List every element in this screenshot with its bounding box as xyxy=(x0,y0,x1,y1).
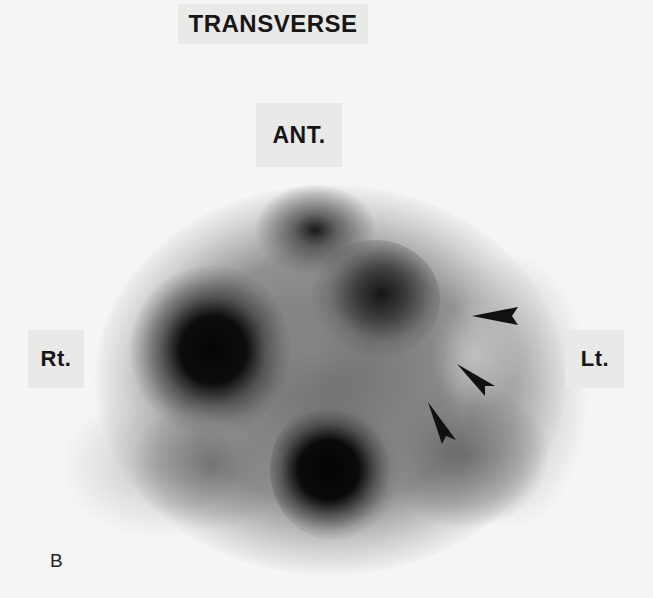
transverse-scan-image xyxy=(0,0,653,598)
left-text: Lt. xyxy=(581,346,609,372)
anterior-text: ANT. xyxy=(272,122,325,149)
anterior-label: ANT. xyxy=(256,103,342,167)
title-label: TRANSVERSE xyxy=(178,4,368,44)
central-lucency xyxy=(250,300,370,400)
arrowhead-lower-icon xyxy=(426,400,462,446)
arrowhead-middle-icon xyxy=(455,362,503,398)
lower-left-region xyxy=(130,400,290,530)
right-side-hotspot xyxy=(130,265,290,435)
anterior-hotspot xyxy=(255,185,375,275)
arrowhead-upper-icon xyxy=(470,305,522,327)
left-label: Lt. xyxy=(566,330,624,388)
panel-letter: B xyxy=(50,550,63,572)
central-hotspot xyxy=(310,240,440,360)
lower-central-hotspot xyxy=(270,400,400,540)
right-text: Rt. xyxy=(41,346,72,372)
right-label: Rt. xyxy=(28,330,84,388)
title-text: TRANSVERSE xyxy=(188,10,357,38)
lower-right-region xyxy=(380,380,550,530)
lower-left-lobe xyxy=(60,390,260,540)
